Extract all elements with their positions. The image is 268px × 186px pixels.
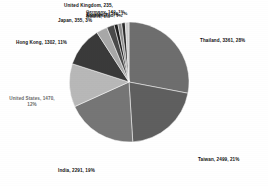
data-label-taiwan: Taiwan, 2499, 21% — [198, 157, 239, 163]
data-label-united-states: United States, 1470, 12% — [6, 96, 58, 108]
data-label-thailand: Thailand, 3361, 28% — [200, 38, 245, 44]
data-label-hong-kong: Hong Kong, 1302, 11% — [16, 40, 67, 46]
data-label-india: India, 2291, 19% — [58, 168, 95, 174]
pie-graphic — [68, 21, 190, 143]
pie-svg — [68, 21, 190, 143]
data-label-others: Others, 1% — [86, 14, 110, 20]
overlapping-data-labels: Germany, 140, 1% Singapore, 110, 1% Aust… — [86, 9, 190, 18]
pie-slice-thailand[interactable] — [129, 22, 189, 93]
pie-chart: Thailand, 3361, 28% Taiwan, 2499, 21% In… — [0, 0, 268, 186]
